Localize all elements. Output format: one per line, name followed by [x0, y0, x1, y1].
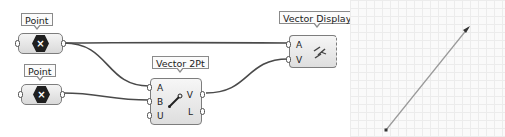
vector-line: [386, 28, 468, 130]
input-u-label: U: [157, 111, 164, 121]
output-v-grip[interactable]: [200, 91, 205, 98]
output-grip[interactable]: [60, 91, 65, 98]
point-b-label: Point: [24, 64, 56, 77]
input-a-label: A: [296, 40, 302, 50]
input-b-grip[interactable]: [147, 98, 152, 105]
rhino-viewport[interactable]: [350, 0, 505, 137]
wire-vec2pt-v-display-v: [206, 59, 288, 93]
vector-2pt-label: Vector 2Pt: [152, 56, 209, 69]
input-b-label: B: [157, 97, 163, 107]
vector-display-label: Vector Display: [279, 11, 355, 24]
input-a-label: A: [157, 83, 163, 93]
input-u-grip[interactable]: [147, 112, 152, 119]
vector-arrowhead-icon: [463, 26, 470, 33]
vector-2pt-node[interactable]: A B U V L: [150, 78, 202, 125]
cross-hex-icon: ×: [33, 86, 50, 103]
input-grip[interactable]: [18, 91, 23, 98]
point-a-node[interactable]: ×: [18, 33, 63, 54]
input-v-label: V: [296, 55, 302, 65]
point-a-label: Point: [21, 13, 53, 26]
input-grip[interactable]: [15, 40, 20, 47]
cross-hex-icon: ×: [32, 35, 49, 52]
wire-pointb-vec2pt-b: [63, 93, 149, 100]
output-grip[interactable]: [61, 40, 66, 47]
vector-preview: [350, 0, 505, 137]
output-l-label: L: [188, 107, 193, 117]
start-point-marker: [385, 129, 388, 132]
vector-arrow-icon: [167, 93, 183, 109]
vector-display-icon: [312, 44, 328, 60]
input-v-grip[interactable]: [286, 56, 291, 63]
output-v-label: V: [187, 90, 193, 100]
grasshopper-canvas[interactable]: Point × Point × Vector 2Pt A B U V L: [0, 0, 345, 137]
point-b-node[interactable]: ×: [21, 84, 62, 105]
output-l-grip[interactable]: [200, 108, 205, 115]
wire-pointa-vec2pt-a: [64, 43, 149, 86]
input-a-grip[interactable]: [147, 84, 152, 91]
vector-display-node[interactable]: A V: [289, 35, 337, 68]
input-a-grip[interactable]: [286, 41, 291, 48]
